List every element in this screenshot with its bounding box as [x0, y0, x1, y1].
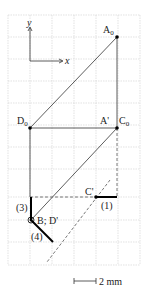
point-c-prime: [94, 195, 98, 199]
label-a-prime: A': [100, 115, 109, 126]
label-segment-1: (1): [101, 200, 113, 212]
scale-bar-label: 2 mm: [99, 276, 122, 287]
label-c-prime: C': [85, 186, 94, 197]
diagram: y x A0 D0 A' C0 C' B; D' (1) (3) (4) 2 m…: [0, 0, 147, 299]
point-b-d-prime: [30, 219, 33, 222]
label-a0: A0: [103, 24, 114, 37]
label-segment-3: (3): [16, 202, 28, 214]
axes-indicator: [28, 27, 63, 63]
label-segment-4: (4): [31, 231, 43, 243]
point-d0: [28, 126, 32, 130]
y-axis-label: y: [26, 17, 32, 28]
point-c0: [115, 126, 119, 130]
label-c0: C0: [119, 115, 130, 128]
x-axis-label: x: [64, 55, 70, 66]
scale-bar: [74, 278, 96, 284]
label-d0: D0: [17, 115, 28, 128]
point-a0: [115, 35, 119, 39]
label-b-d-prime: B; D': [37, 215, 58, 226]
grid: [8, 15, 140, 265]
construction-lines: [30, 37, 117, 220]
